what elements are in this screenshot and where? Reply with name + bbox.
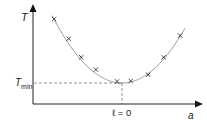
data-point-marker [94, 67, 98, 71]
data-point-marker [129, 79, 133, 83]
data-point-marker [79, 55, 83, 59]
y-axis-label: T [21, 11, 29, 23]
axes [30, 4, 204, 108]
x-axis-arrow-icon [195, 101, 203, 108]
zero-marker-label: ℓ = 0 [112, 107, 131, 118]
y-axis-arrow-icon [30, 4, 37, 12]
data-point-marker [52, 17, 56, 21]
fit-curve [52, 16, 185, 83]
reference-lines [34, 83, 122, 104]
tmin-sub: min [21, 83, 32, 90]
data-point-marker [178, 33, 182, 37]
data-point-marker [66, 37, 70, 41]
x-axis-label: a [188, 110, 194, 121]
diagram-canvas: T a Tmin ℓ = 0 [0, 0, 207, 127]
data-markers [52, 17, 183, 84]
tmin-label: Tmin [15, 77, 32, 90]
